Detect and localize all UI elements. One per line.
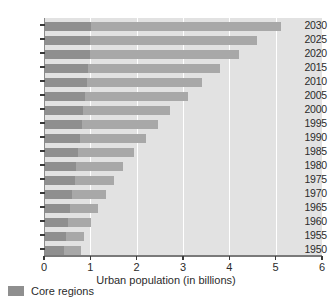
x-tick-mark-6 — [321, 256, 323, 260]
x-tick-mark-0 — [43, 256, 45, 260]
bar-segment-core-regions — [44, 246, 64, 255]
bar-row — [44, 232, 322, 241]
y-tick-mark-2015 — [40, 66, 45, 68]
y-tick-label-1955: 1955 — [287, 230, 327, 240]
bar-row — [44, 162, 322, 171]
bar-segment-core-regions — [44, 176, 75, 185]
bar-segment-core-regions — [44, 134, 80, 143]
bar-row — [44, 50, 322, 59]
y-tick-mark-1985 — [40, 150, 45, 152]
y-tick-label-1965: 1965 — [287, 202, 327, 212]
y-tick-label-2005: 2005 — [287, 90, 327, 100]
bar-segment-core-regions — [44, 148, 78, 157]
legend: Core regions — [8, 285, 94, 297]
y-tick-mark-2025 — [40, 38, 45, 40]
y-tick-label-1990: 1990 — [287, 132, 327, 142]
x-tick-mark-5 — [275, 256, 277, 260]
y-tick-label-1985: 1985 — [287, 146, 327, 156]
x-tick-mark-4 — [229, 256, 231, 260]
y-tick-label-1975: 1975 — [287, 174, 327, 184]
bar-segment-core-regions — [44, 218, 68, 227]
y-tick-mark-1975 — [40, 178, 45, 180]
bar-segment-other-regions — [70, 204, 98, 213]
bar-segment-other-regions — [90, 50, 239, 59]
x-tick-label-2: 2 — [125, 261, 149, 273]
bar-segment-core-regions — [44, 190, 72, 199]
x-tick-label-4: 4 — [217, 261, 241, 273]
y-tick-label-2020: 2020 — [287, 48, 327, 58]
bar-segment-other-regions — [85, 92, 188, 101]
bar-row — [44, 204, 322, 213]
y-tick-mark-2005 — [40, 94, 45, 96]
y-tick-mark-1980 — [40, 164, 45, 166]
bar-row — [44, 120, 322, 129]
bar-row — [44, 218, 322, 227]
y-tick-mark-2000 — [40, 108, 45, 110]
bar-segment-core-regions — [44, 92, 85, 101]
bar-segment-other-regions — [88, 64, 219, 73]
bar-segment-other-regions — [87, 78, 203, 87]
legend-label-core-regions: Core regions — [31, 285, 94, 297]
y-tick-label-2015: 2015 — [287, 62, 327, 72]
bar-segment-other-regions — [80, 134, 146, 143]
bar-segment-other-regions — [72, 190, 105, 199]
plot-area — [44, 18, 322, 256]
y-tick-mark-2020 — [40, 52, 45, 54]
bar-segment-other-regions — [66, 232, 85, 241]
x-tick-mark-1 — [90, 256, 92, 260]
x-tick-label-1: 1 — [78, 261, 102, 273]
bar-segment-other-regions — [91, 22, 281, 31]
bar-segment-core-regions — [44, 22, 91, 31]
bar-row — [44, 106, 322, 115]
bar-segment-core-regions — [44, 36, 90, 45]
y-tick-label-2025: 2025 — [287, 34, 327, 44]
x-tick-mark-3 — [182, 256, 184, 260]
bar-segment-core-regions — [44, 64, 88, 73]
y-tick-label-1960: 1960 — [287, 216, 327, 226]
bar-segment-core-regions — [44, 50, 90, 59]
y-tick-mark-1965 — [40, 206, 45, 208]
y-tick-label-2000: 2000 — [287, 104, 327, 114]
y-tick-label-2010: 2010 — [287, 76, 327, 86]
legend-swatch-core-regions — [8, 286, 24, 296]
bar-segment-other-regions — [68, 218, 92, 227]
y-tick-mark-2010 — [40, 80, 45, 82]
bar-row — [44, 92, 322, 101]
y-tick-label-1970: 1970 — [287, 188, 327, 198]
y-tick-mark-1955 — [40, 234, 45, 236]
bar-row — [44, 190, 322, 199]
bar-row — [44, 246, 322, 255]
bar-segment-other-regions — [82, 120, 158, 129]
bar-segment-core-regions — [44, 162, 76, 171]
bar-row — [44, 176, 322, 185]
bar-row — [44, 64, 322, 73]
bar-segment-other-regions — [90, 36, 257, 45]
y-tick-label-2030: 2030 — [287, 20, 327, 30]
bar-segment-core-regions — [44, 120, 82, 129]
y-tick-label-1980: 1980 — [287, 160, 327, 170]
bar-row — [44, 22, 322, 31]
y-tick-mark-1950 — [40, 248, 45, 250]
bar-segment-core-regions — [44, 204, 70, 213]
y-tick-mark-1970 — [40, 192, 45, 194]
bar-row — [44, 134, 322, 143]
bar-row — [44, 78, 322, 87]
x-tick-mark-2 — [136, 256, 138, 260]
x-tick-label-5: 5 — [264, 261, 288, 273]
bar-segment-other-regions — [78, 148, 134, 157]
y-tick-mark-1995 — [40, 122, 45, 124]
y-tick-mark-1990 — [40, 136, 45, 138]
bar-segment-core-regions — [44, 78, 87, 87]
bar-row — [44, 148, 322, 157]
y-tick-mark-1960 — [40, 220, 45, 222]
urban-population-bar-chart: 2030202520202015201020052000199519901985… — [0, 0, 332, 297]
x-tick-label-3: 3 — [171, 261, 195, 273]
x-tick-label-0: 0 — [32, 261, 56, 273]
y-tick-label-1950: 1950 — [287, 244, 327, 254]
bar-segment-other-regions — [76, 162, 123, 171]
bar-segment-other-regions — [75, 176, 115, 185]
y-tick-label-1995: 1995 — [287, 118, 327, 128]
bar-segment-core-regions — [44, 106, 83, 115]
bar-segment-core-regions — [44, 232, 66, 241]
bar-segment-other-regions — [83, 106, 169, 115]
